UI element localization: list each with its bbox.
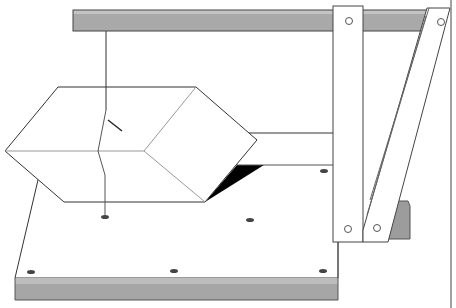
hole [319, 269, 327, 273]
hole [27, 270, 35, 274]
vertical-post [333, 6, 363, 242]
hole [101, 215, 109, 219]
post-hole-top [346, 18, 353, 25]
brace-hole-bottom [374, 225, 381, 232]
brace-hole-top [438, 19, 445, 26]
illustration: Line illustration of a rhombohedral crys… [0, 0, 456, 308]
hole [170, 269, 178, 273]
hole [246, 218, 254, 222]
post-hole-bottom [345, 226, 352, 233]
top-bar [73, 10, 440, 31]
hole [320, 169, 328, 173]
